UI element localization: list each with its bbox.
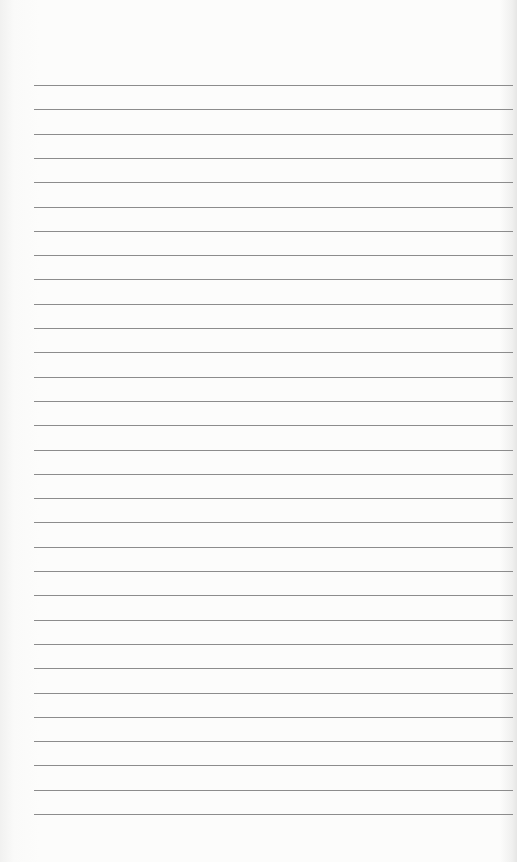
ruled-line [34,231,513,232]
ruled-line [34,182,513,183]
ruled-line [34,547,513,548]
ruled-line [34,765,513,766]
ruled-line [34,498,513,499]
ruled-line [34,425,513,426]
ruled-line [34,255,513,256]
ruled-line [34,717,513,718]
ruled-line [34,401,513,402]
ruled-line [34,790,513,791]
ruled-line [34,571,513,572]
ruled-line [34,328,513,329]
ruled-line [34,109,513,110]
ruled-line [34,741,513,742]
ruled-line [34,814,513,815]
ruled-line [34,158,513,159]
ruled-line [34,352,513,353]
ruled-line [34,450,513,451]
ruled-line [34,620,513,621]
ruled-line [34,522,513,523]
ruled-line [34,595,513,596]
ruled-line [34,304,513,305]
ruled-line [34,85,513,86]
ruled-line [34,474,513,475]
lined-paper-page [0,0,517,862]
ruled-line [34,134,513,135]
ruled-line [34,668,513,669]
ruled-line [34,377,513,378]
ruled-line [34,644,513,645]
ruled-line [34,279,513,280]
ruled-line [34,207,513,208]
ruled-line [34,693,513,694]
